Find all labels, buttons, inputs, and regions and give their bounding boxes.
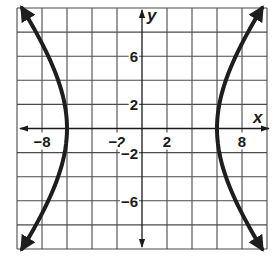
x-axis-label: x: [252, 108, 264, 127]
y-tick-label: 2: [130, 96, 138, 113]
y-tick-label: −6: [121, 193, 138, 210]
y-tick-label: −2: [121, 145, 138, 162]
y-axis-label: y: [146, 6, 158, 25]
x-tick-label: 8: [238, 133, 246, 150]
x-tick-label: 2: [163, 133, 171, 150]
x-tick-label: −8: [33, 133, 50, 150]
axes: [20, 10, 269, 247]
hyperbola-graph: −8−22862−2−6 x y: [0, 0, 274, 256]
y-tick-label: 6: [130, 48, 138, 65]
